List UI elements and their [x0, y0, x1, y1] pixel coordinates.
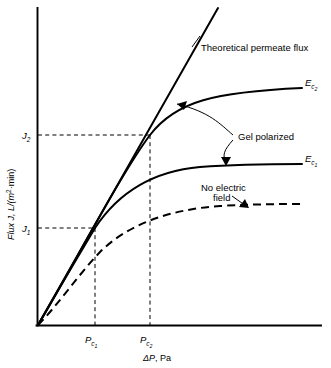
x-tick-pc1-subsub: 1	[95, 343, 98, 349]
flux-pressure-chart: Flux J, L/(m2·min) ΔP, Pa J1 J2 Pc1 Pc2 …	[0, 0, 331, 368]
annotation-theoretical-permeate-flux: Theoretical permeate flux	[201, 42, 308, 53]
x-axis-label-delta: ΔP	[142, 353, 155, 363]
arrowhead-no-electric-field	[239, 199, 249, 208]
y-axis-label: Flux J, L/(m2·min)	[5, 169, 17, 240]
x-axis-label-tail: , Pa	[155, 353, 171, 363]
leader-gel-polarized-upper	[177, 104, 233, 135]
curve-label-ec2-subsub: 2	[314, 86, 318, 92]
curve-ec1	[38, 164, 302, 325]
curve-label-ec2: Ec2	[305, 77, 318, 92]
svg-text:Flux J, L/(m2·min): Flux J, L/(m2·min)	[5, 169, 17, 240]
y-axis-label-main: Flux J, L/(m	[6, 192, 16, 240]
x-tick-pc2-subsub: 2	[149, 343, 153, 349]
x-axis-label: ΔP, Pa	[142, 353, 171, 363]
curve-label-ec1-subsub: 1	[315, 162, 318, 168]
y-tick-j2-sub: 2	[26, 136, 31, 143]
curve-ec2	[38, 88, 302, 325]
annotation-no-electric-field-line2: field	[213, 192, 230, 203]
y-tick-label-j2: J2	[21, 130, 31, 143]
curve-label-ec1: Ec1	[305, 153, 318, 168]
x-tick-label-pc1: Pc1	[85, 334, 98, 349]
y-axis-label-tail: ·min)	[6, 169, 16, 190]
annotation-gel-polarized: Gel polarized	[238, 131, 294, 142]
axes-group	[37, 8, 322, 326]
data-curves-group	[38, 8, 302, 325]
x-tick-label-pc2: Pc2	[140, 334, 153, 349]
curve-no-electric-field	[38, 204, 302, 325]
figure-container: Flux J, L/(m2·min) ΔP, Pa J1 J2 Pc1 Pc2 …	[0, 0, 331, 368]
y-tick-label-j1: J1	[21, 223, 31, 236]
y-tick-j1-sub: 1	[27, 229, 31, 236]
